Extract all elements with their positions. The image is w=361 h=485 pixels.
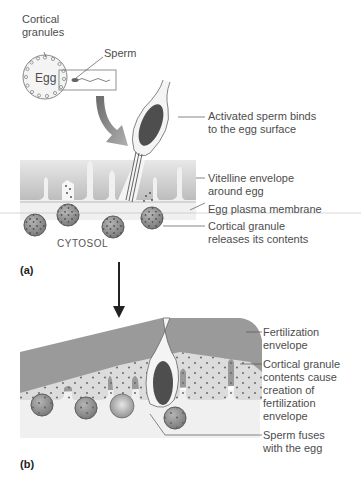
egg-label: Egg — [35, 72, 56, 85]
callout-activated-sperm: Activated sperm binds to the egg surface — [208, 110, 316, 136]
callout-egg-plasma-membrane: Egg plasma membrane — [208, 203, 322, 216]
callout-cortical-granule-contents: Cortical granule contents cause creation… — [263, 358, 340, 423]
callout-sperm-fuses: Sperm fuses with the egg — [263, 429, 325, 455]
curved-arrow-icon — [96, 96, 128, 146]
panel-b-cortex — [20, 318, 262, 438]
panel-b-label: (b) — [20, 458, 34, 470]
down-arrow-icon — [113, 262, 125, 318]
cortical-granules-label: Cortical granules — [22, 13, 64, 39]
sperm-inset-label: Sperm — [104, 47, 136, 60]
callout-vitelline-envelope: Vitelline envelope around egg — [208, 172, 294, 198]
panel-a-label: (a) — [20, 264, 33, 276]
cytosol-label: CYTOSOL — [57, 238, 108, 249]
callout-fertilization-envelope: Fertilization envelope — [263, 326, 319, 352]
callout-cortical-granule-releases: Cortical granule releases its contents — [208, 220, 308, 246]
